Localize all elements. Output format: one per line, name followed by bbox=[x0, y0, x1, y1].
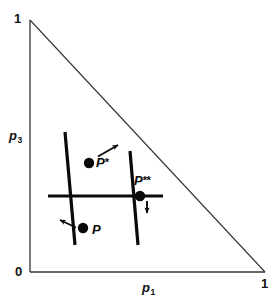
isocline-lines bbox=[48, 132, 163, 245]
point-marker-p-star-star bbox=[135, 191, 145, 201]
y-axis-tick-one: 1 bbox=[14, 12, 21, 25]
point-label-p-star-text: P bbox=[96, 155, 105, 170]
y-axis-label-subscript: 3 bbox=[17, 135, 22, 145]
point-label-p-star-star: P** bbox=[134, 174, 150, 187]
point-label-p-star-star-stars: ** bbox=[143, 174, 151, 186]
point-marker-p bbox=[78, 223, 88, 233]
steep-isocline-line bbox=[65, 132, 75, 245]
x-axis-tick-one: 1 bbox=[261, 277, 268, 290]
y-axis-label-text: p bbox=[9, 128, 17, 143]
point-label-p: P bbox=[92, 223, 101, 236]
x-axis-label-subscript: 1 bbox=[150, 287, 155, 297]
origin-tick-zero: 0 bbox=[15, 265, 22, 278]
point-marker-p-star bbox=[84, 158, 94, 168]
point-label-p-star-stars: * bbox=[105, 156, 109, 168]
point-label-p-star: P* bbox=[96, 156, 108, 169]
x-axis-label-text: p bbox=[142, 280, 150, 295]
simplex-diagram-svg bbox=[0, 0, 277, 301]
x-axis-label: p1 bbox=[142, 281, 155, 294]
y-axis-label: p3 bbox=[9, 129, 22, 142]
point-label-p-text: P bbox=[92, 222, 101, 237]
point-label-p-star-star-text: P bbox=[134, 173, 143, 188]
figure-canvas: p3 p1 1 0 1 P* P** P bbox=[0, 0, 277, 301]
